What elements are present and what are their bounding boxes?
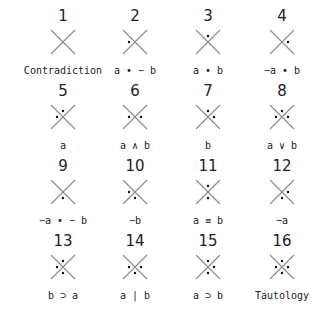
- x-diagram-icon: [122, 104, 148, 130]
- dot-top: [62, 260, 64, 262]
- dot-bottom: [281, 197, 283, 199]
- cell-number: 4: [277, 8, 287, 24]
- x-diagram-svg: [269, 29, 295, 55]
- x-diagram-svg: [195, 104, 221, 130]
- dot-top: [207, 260, 209, 262]
- cell-number: 12: [272, 158, 291, 174]
- dot-bottom: [281, 272, 283, 274]
- cell-label: −a: [276, 215, 288, 227]
- x-diagram-svg: [269, 179, 295, 205]
- cell-label: b ⊃ a: [48, 290, 78, 302]
- function-cell: 1 Contradiction: [27, 8, 99, 83]
- x-diagram-icon: [122, 29, 148, 55]
- dot-bottom: [134, 197, 136, 199]
- cell-number: 10: [125, 158, 144, 174]
- dot-right: [140, 116, 142, 118]
- cut-off-title: ' ': [0, 0, 328, 7]
- cell-label: Contradiction: [24, 65, 102, 77]
- function-cell: 8 a ∨ b: [245, 83, 319, 158]
- x-diagram-icon: [195, 104, 221, 130]
- x-diagram-svg: [122, 254, 148, 280]
- dot-right: [287, 41, 289, 43]
- cell-label: a ∧ b: [120, 140, 150, 152]
- dot-top: [207, 35, 209, 37]
- function-cell: 3 a • b: [171, 8, 245, 83]
- x-diagram-svg: [122, 104, 148, 130]
- cell-number: 11: [198, 158, 217, 174]
- dot-bottom: [207, 197, 209, 199]
- dot-left: [275, 266, 277, 268]
- dot-left: [275, 116, 277, 118]
- cell-number: 6: [130, 83, 140, 99]
- dot-left: [128, 41, 130, 43]
- dot-left: [128, 191, 130, 193]
- cell-number: 14: [125, 233, 144, 249]
- x-diagram-icon: [50, 29, 76, 55]
- x-diagram-icon: [122, 254, 148, 280]
- x-diagram-icon: [195, 29, 221, 55]
- dot-bottom: [207, 272, 209, 274]
- x-diagram-svg: [50, 254, 76, 280]
- dot-right: [213, 116, 215, 118]
- function-cell: 4 −a • b: [245, 8, 319, 83]
- cell-number: 13: [53, 233, 72, 249]
- x-diagram-svg: [50, 104, 76, 130]
- x-diagram-svg: [122, 179, 148, 205]
- dot-right: [287, 116, 289, 118]
- cell-label: a ∨ b: [267, 140, 297, 152]
- dot-left: [56, 266, 58, 268]
- cell-label: a • − b: [114, 65, 156, 77]
- function-cell: 2 a • − b: [99, 8, 171, 83]
- dot-top: [207, 110, 209, 112]
- x-diagram-svg: [122, 29, 148, 55]
- cell-number: 7: [203, 83, 213, 99]
- dot-left: [128, 266, 130, 268]
- cell-number: 2: [130, 8, 140, 24]
- dot-right: [213, 266, 215, 268]
- x-diagram-svg: [50, 29, 76, 55]
- dot-top: [207, 185, 209, 187]
- dot-right: [140, 266, 142, 268]
- cell-number: 9: [58, 158, 68, 174]
- function-cell: 7 b: [171, 83, 245, 158]
- cell-number: 1: [58, 8, 68, 24]
- function-cell: 13 b ⊃ a: [27, 233, 99, 308]
- x-diagram-svg: [50, 179, 76, 205]
- cell-label: a ⊃ b: [193, 290, 223, 302]
- function-cell: 11 a ≡ b: [171, 158, 245, 233]
- dot-right: [287, 266, 289, 268]
- cell-label: Tautology: [255, 290, 309, 302]
- cell-label: −a • b: [264, 65, 300, 77]
- dot-right: [287, 191, 289, 193]
- function-cell: 5 a: [27, 83, 99, 158]
- function-cell: 10 −b: [99, 158, 171, 233]
- x-diagram-icon: [269, 104, 295, 130]
- cell-label: −b: [129, 215, 141, 227]
- dot-bottom: [62, 272, 64, 274]
- x-diagram-svg: [195, 254, 221, 280]
- dot-bottom: [62, 197, 64, 199]
- x-diagram-svg: [195, 179, 221, 205]
- cell-number: 3: [203, 8, 213, 24]
- cell-number: 16: [272, 233, 291, 249]
- cell-label: a ≡ b: [193, 215, 223, 227]
- dot-top: [281, 260, 283, 262]
- cell-number: 15: [198, 233, 217, 249]
- function-cell: 14 a | b: [99, 233, 171, 308]
- x-diagram-icon: [50, 104, 76, 130]
- cell-label: a • b: [193, 65, 223, 77]
- x-diagram-icon: [50, 254, 76, 280]
- x-diagram-icon: [269, 254, 295, 280]
- cell-label: −a • − b: [39, 215, 87, 227]
- x-diagram-icon: [269, 179, 295, 205]
- dot-bottom: [134, 272, 136, 274]
- function-cell: 9 −a • − b: [27, 158, 99, 233]
- function-cell: 6 a ∧ b: [99, 83, 171, 158]
- truth-function-grid: 1 Contradiction 2 a • − b 3 a • b 4 −a •…: [27, 8, 319, 308]
- x-diagram-icon: [122, 179, 148, 205]
- dot-top: [281, 110, 283, 112]
- x-diagram-svg: [269, 254, 295, 280]
- cell-label: b: [205, 140, 211, 152]
- cell-label: a | b: [120, 290, 150, 302]
- x-diagram-svg: [195, 29, 221, 55]
